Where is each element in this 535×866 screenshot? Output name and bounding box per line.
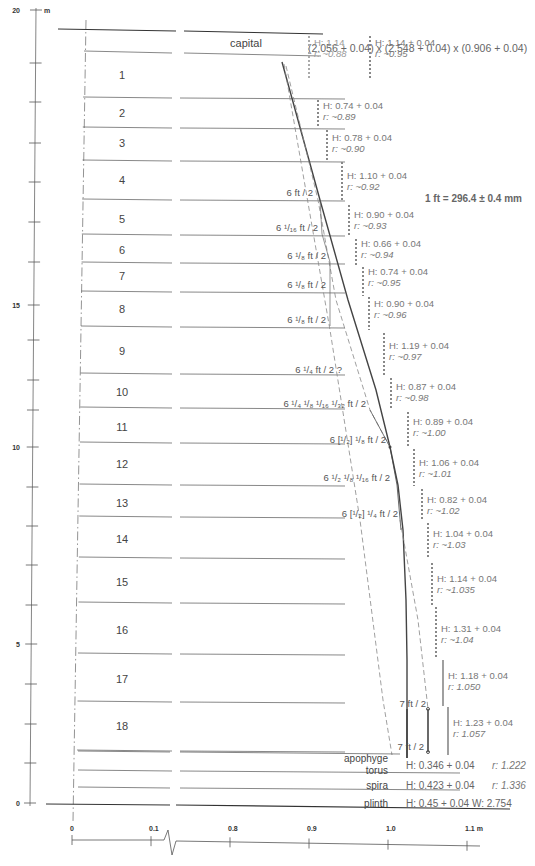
foot-mark-label: 6 ft / 2 [287, 187, 313, 198]
annotation-ratio: r: 1.050 [448, 681, 481, 692]
base-part-annotation: H: 0.423 + 0.04 [406, 780, 475, 791]
annotation-ratio: r: ~0.95 [368, 277, 401, 288]
annotation-height: H: 0.74 + 0.04 [368, 266, 428, 277]
drum-joint-line [81, 326, 172, 327]
drum-joint-line [80, 484, 172, 485]
column-profile [282, 62, 430, 758]
annotation-height: H: 0.90 + 0.04 [374, 298, 434, 309]
diagram-canvas: m 20151050 capital (2.056 + 0.04) x (2.5… [0, 0, 535, 866]
drum-number: 1 [119, 69, 125, 81]
base-part-label: apophyge [344, 753, 388, 764]
annotation-ratio: r: ~0.92 [347, 181, 380, 192]
drum-joint-line [80, 442, 172, 443]
annotation-ratio: r: ~0.94 [361, 249, 393, 260]
horizontal-scale-axis: 00.10.80.91.01.1 m [70, 825, 483, 855]
horizontal-tick-label: 0.1 [149, 825, 159, 832]
drum-rows: 123456789101112131415161718 [77, 69, 345, 752]
drum-number: 3 [119, 137, 125, 149]
vertical-scale-axis: m 20151050 [12, 7, 50, 807]
drum-joint-line [82, 262, 172, 263]
horizontal-tick-label: 1.1 m [465, 825, 483, 832]
foot-mark-label: 6 ¹/₈ ft / 2 [287, 314, 326, 325]
drum-joint-line [83, 160, 172, 161]
annotation-height: H: 0.82 + 0.04 [427, 494, 487, 505]
drum-joint-line [78, 653, 172, 654]
drum-joint-line [79, 516, 172, 517]
annotation-height: H: 0.74 + 0.04 [323, 100, 383, 111]
drum-number: 13 [116, 497, 128, 509]
annotation-ratio: r: ~1.04 [441, 634, 473, 645]
drum-joint-line [180, 702, 345, 703]
annotation-ratio: r: ~0.95 [375, 48, 408, 59]
foot-mark-label: 6 ¹/₂ ¹/₈ ¹/₁₆ ft / 2 [324, 472, 390, 483]
annotation-ratio: r: ~1.01 [419, 468, 451, 479]
drum-joint-line [79, 557, 172, 558]
drum-joint-line [80, 407, 172, 408]
foot-mark-label: 6 ¹/₄ ft / 2 ? [295, 364, 342, 375]
annotation-ratio: r: 1.057 [453, 728, 486, 739]
drum-number: 14 [116, 533, 128, 545]
annotation-ratio: r: ~1.035 [437, 584, 475, 595]
drum-joint-line [180, 485, 345, 486]
annotation-height: H: 1.14 + 0.04 [437, 573, 497, 584]
drum-number: 16 [116, 624, 128, 636]
annotation-height: H: 1.18 + 0.04 [448, 670, 508, 681]
drum-number: 8 [119, 303, 125, 315]
drum-number: 6 [119, 244, 125, 256]
foot-mark-label: 6 ¹/₈ ft / 2 [287, 279, 326, 290]
drum-joint-line [180, 98, 345, 99]
drum-number: 5 [119, 213, 125, 225]
drum-number: 15 [116, 576, 128, 588]
drum-number: 12 [116, 458, 128, 470]
annotation-height: H: 1.23 + 0.04 [453, 717, 513, 728]
drum-joint-line [180, 327, 345, 328]
drum-joint-line [180, 603, 345, 604]
annotation-ratio: r: ~1.02 [427, 505, 460, 516]
drum-joint-line [180, 263, 345, 264]
horizontal-tick-label: 0 [70, 825, 74, 832]
drum-joint-line [82, 199, 172, 200]
drum-joint-line [83, 127, 172, 128]
annotation-ratio: r: ~0.88 [314, 48, 347, 59]
annotation-ratio: r: ~0.93 [354, 220, 387, 231]
annotation-height: H: 0.89 + 0.04 [413, 416, 473, 427]
annotation-height: H: 1.06 + 0.04 [419, 457, 479, 468]
drum-number: 9 [119, 345, 125, 357]
base-part-label: plinth [364, 798, 388, 809]
base-part-label: torus [366, 765, 388, 776]
column-profile-diagram: m 20151050 capital (2.056 + 0.04) x (2.5… [0, 0, 535, 866]
drum-joint-line [180, 235, 345, 236]
drum-joint-line [81, 373, 172, 374]
annotation-height: H: 1.04 + 0.04 [433, 528, 493, 539]
drum-joint-line [83, 97, 172, 98]
annotation-height: H: 0.78 + 0.04 [332, 132, 392, 143]
drum-number: 18 [116, 720, 128, 732]
foot-mark-label: 6 [¹/₂] ¹/₄ ft / 2 [342, 508, 398, 519]
drum-number: 10 [116, 386, 128, 398]
drum-joint-line [78, 602, 172, 603]
base-part-label: spira [366, 780, 388, 791]
drum-joint-line [81, 291, 172, 292]
drum-annotations: H: 1.14r: ~0.88H: 1.14 + 0.04r: ~0.95H: … [309, 36, 513, 755]
drum-number: 7 [119, 270, 125, 282]
annotation-ratio: r: ~0.90 [332, 143, 365, 154]
drum-number: 11 [116, 421, 127, 433]
foot-mark-label: 6 ¹/₈ ft / 2 [287, 250, 326, 261]
column-axis-line [73, 20, 86, 822]
base-parts: apophygeH: 0.346 + 0.04r: 1.222torusspir… [344, 753, 526, 809]
entasis-profile-line [282, 62, 407, 758]
drum-joint-line [180, 161, 345, 162]
drum-joint-line [180, 292, 345, 293]
base-part-annotation: H: 0.346 + 0.04 [406, 760, 475, 771]
base-part-ratio: r: 1.222 [492, 760, 526, 771]
drum-number: 2 [119, 107, 125, 119]
drum-joint-line [78, 701, 172, 702]
annotation-height: H: 1.14 + 0.04 [375, 37, 435, 48]
vertical-tick-label: 5 [16, 641, 20, 648]
horizontal-tick-label: 0.8 [228, 825, 238, 832]
drum-joint-line [180, 443, 345, 444]
annotation-height: H: 0.87 + 0.04 [396, 381, 456, 392]
annotation-ratio: r: ~0.98 [396, 392, 429, 403]
vertical-tick-label: 10 [12, 444, 20, 451]
foot-definition: 1 ft = 296.4 ± 0.4 mm [425, 193, 522, 204]
